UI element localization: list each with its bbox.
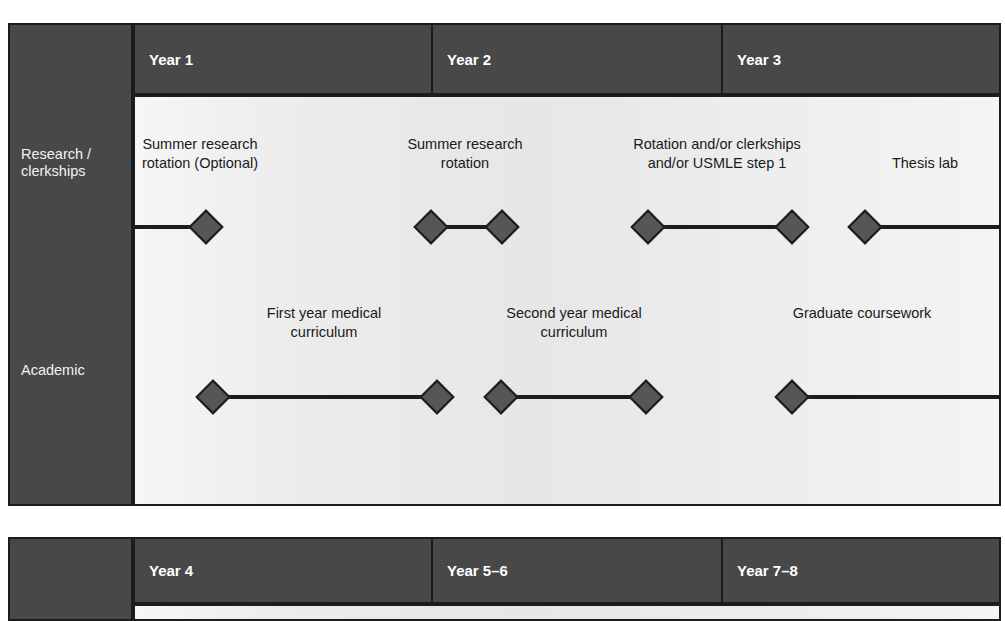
year-header-year-1[interactable]: Year 1	[133, 23, 432, 95]
row-label-research-clerkships: Research / clerkships	[10, 146, 135, 180]
milestone-diamond[interactable]	[484, 209, 519, 244]
milestone-diamond[interactable]	[483, 379, 518, 414]
milestone-connector	[213, 395, 437, 399]
milestone-diamond[interactable]	[774, 379, 809, 414]
year-header-year-7-8[interactable]: Year 7–8	[722, 537, 1001, 604]
milestone-diamond[interactable]	[413, 209, 448, 244]
category-column-bottom	[8, 537, 133, 621]
milestone-label: Rotation and/or clerkships and/or USMLE …	[557, 135, 877, 172]
milestone-diamond[interactable]	[774, 209, 809, 244]
year-header-year-2[interactable]: Year 2	[432, 23, 722, 95]
milestone-label: First year medical curriculum	[209, 304, 439, 341]
timeline-plot-area-top: Summer research rotation (Optional) Summ…	[133, 95, 1001, 506]
year-header-year-3[interactable]: Year 3	[722, 23, 1001, 95]
milestone-connector	[792, 395, 1001, 399]
milestone-diamond[interactable]	[188, 209, 223, 244]
timeline-plot-area-bottom	[133, 604, 1001, 621]
category-column-top: Research / clerkships Academic	[8, 23, 133, 506]
milestone-diamond[interactable]	[847, 209, 882, 244]
milestone-label: Summer research rotation (Optional)	[133, 135, 315, 172]
year-header-band-top: Year 1 Year 2 Year 3	[133, 23, 1001, 95]
milestone-label: Thesis lab	[850, 154, 1000, 173]
milestone-label: Second year medical curriculum	[454, 304, 694, 341]
milestone-diamond[interactable]	[630, 209, 665, 244]
milestone-label: Graduate coursework	[732, 304, 992, 323]
timeline-panel-years-4-8: Year 4 Year 5–6 Year 7–8	[8, 537, 1001, 621]
milestone-connector	[648, 225, 792, 229]
milestone-diamond[interactable]	[419, 379, 454, 414]
milestone-label: Summer research rotation	[360, 135, 570, 172]
milestone-diamond[interactable]	[628, 379, 663, 414]
timeline-panel-years-1-3: Research / clerkships Academic Year 1 Ye…	[8, 23, 1001, 506]
milestone-connector	[865, 225, 1001, 229]
year-header-year-4[interactable]: Year 4	[133, 537, 432, 604]
milestone-diamond[interactable]	[195, 379, 230, 414]
milestone-connector	[501, 395, 646, 399]
timeline-diagram: Research / clerkships Academic Year 1 Ye…	[0, 0, 1005, 621]
row-label-academic: Academic	[10, 362, 135, 379]
year-header-band-bottom: Year 4 Year 5–6 Year 7–8	[133, 537, 1001, 604]
year-header-year-5-6[interactable]: Year 5–6	[432, 537, 722, 604]
